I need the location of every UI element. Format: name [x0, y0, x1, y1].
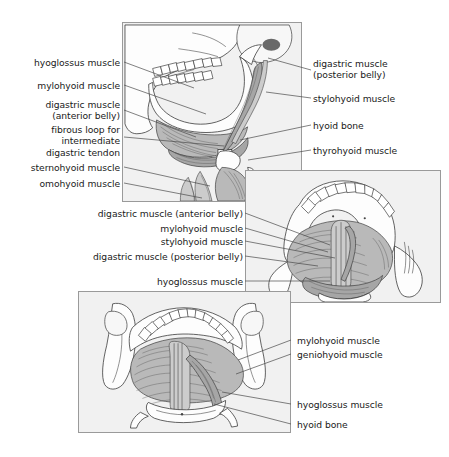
- label-stylohyoid-muscle-lateral: stylohyoid muscle: [313, 93, 449, 104]
- label-geniohyoid-muscle-posterior: geniohyoid muscle: [297, 349, 447, 360]
- label-hyoglossus-muscle-posterior: hyoglossus muscle: [297, 399, 447, 410]
- label-digastric-muscle-posterior-belly-superior: digastric muscle (posterior belly): [60, 251, 243, 262]
- label-hyoglossus-muscle-lateral: hyoglossus muscle: [0, 57, 120, 68]
- label-omohyoid-muscle-lateral: omohyoid muscle: [0, 178, 120, 189]
- label-digastric-muscle-anterior-belly-superior: digastric muscle (anterior belly): [60, 208, 243, 219]
- label-sternohyoid-muscle-lateral: sternohyoid muscle: [0, 162, 120, 173]
- label-digastric-muscle-posterior-belly-lateral: digastric muscle (posterior belly): [313, 58, 449, 81]
- superior-view-illustration: [246, 171, 440, 302]
- label-mylohyoid-muscle-lateral: mylohyoid muscle: [0, 80, 120, 91]
- label-stylohyoid-muscle-superior: stylohyoid muscle: [60, 236, 243, 247]
- panel-superior-oblique-view: [245, 170, 441, 303]
- label-fibrous-loop-intermediate-digastric-tendon: fibrous loop for intermediate digastric …: [0, 124, 120, 158]
- label-mylohyoid-muscle-superior: mylohyoid muscle: [60, 223, 243, 234]
- anatomy-figure: hyoglossus muscle mylohyoid muscle digas…: [0, 0, 449, 457]
- label-digastric-muscle-anterior-belly-lateral: digastric muscle (anterior belly): [0, 99, 120, 122]
- label-mylohyoid-muscle-posterior: mylohyoid muscle: [297, 335, 447, 346]
- label-hyoid-bone-lateral: hyoid bone: [313, 120, 449, 131]
- label-thyrohyoid-muscle-lateral: thyrohyoid muscle: [313, 145, 449, 156]
- label-hyoid-bone-posterior: hyoid bone: [297, 419, 447, 430]
- posterior-view-illustration: [79, 292, 290, 432]
- panel-posterior-view: [78, 291, 291, 433]
- label-hyoglossus-muscle-superior: hyoglossus muscle: [60, 276, 243, 287]
